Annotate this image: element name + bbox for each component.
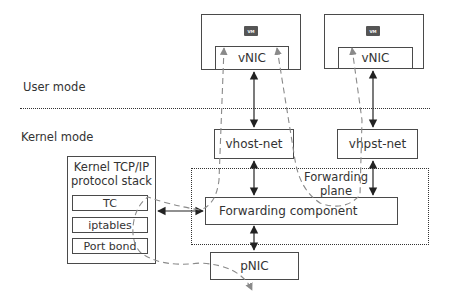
forwarding-plane-label-line1: Forwarding [296, 170, 376, 184]
kernel-mode-label: Kernel mode [21, 130, 93, 144]
vhost-net-box-1: vhost-net [214, 129, 294, 159]
forwarding-component-label: Forwarding component [219, 204, 358, 218]
vhost-net-box-2: vhpst-net [337, 129, 418, 159]
vnic-box-1: vNIC [215, 46, 289, 70]
pnic-box: pNIC [210, 252, 299, 280]
kernel-item-tc: TC [72, 195, 148, 211]
kernel-stack-title-line1: Kernel TCP/IP [67, 160, 156, 174]
forwarding-plane-label: Forwarding plane [296, 170, 376, 198]
user-kernel-divider [20, 108, 430, 109]
kernel-item-port-bond: Port bond [72, 238, 148, 254]
vm-chip-icon-2: VM [366, 26, 380, 36]
kernel-stack-title-line2: protocol stack [67, 174, 156, 188]
forwarding-plane-label-line2: plane [296, 184, 376, 198]
vnic-box-2: vNIC [338, 47, 413, 69]
vm-chip-icon-1: VM [244, 26, 258, 36]
kernel-stack-title: Kernel TCP/IP protocol stack [67, 160, 156, 188]
forwarding-component-box: Forwarding component [205, 197, 398, 225]
user-mode-label: User mode [23, 80, 85, 94]
kernel-item-iptables: iptables [72, 217, 148, 233]
